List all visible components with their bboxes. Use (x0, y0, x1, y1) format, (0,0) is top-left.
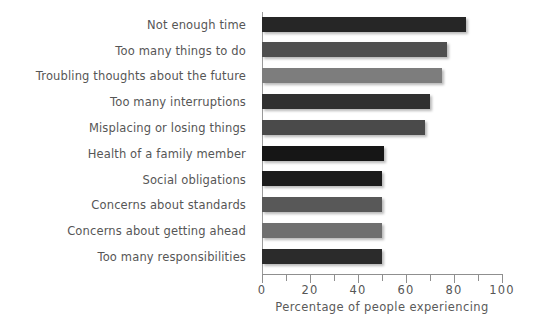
bar-track (262, 167, 539, 193)
bar-row: Troubling thoughts about the future (0, 64, 539, 90)
bar-row: Too many interruptions (0, 89, 539, 115)
bar-social-obligations (262, 171, 382, 186)
x-tick (454, 274, 455, 283)
category-label: Not enough time (0, 12, 254, 38)
bar-track (262, 38, 539, 64)
bar-track (262, 141, 539, 167)
category-label: Misplacing or losing things (0, 115, 254, 141)
category-label-text: Too many responsibilities (97, 250, 246, 264)
x-tick (310, 274, 311, 283)
category-label-text: Health of a family member (88, 147, 246, 161)
x-tick-label: 80 (445, 283, 462, 297)
category-label-text: Too many things to do (115, 44, 246, 58)
category-label-text: Too many interruptions (110, 95, 246, 109)
x-tick-label: 0 (258, 283, 267, 297)
bar-track (262, 193, 539, 219)
bar-row: Social obligations (0, 167, 539, 193)
bar-row: Concerns about standards (0, 193, 539, 219)
category-label: Too many interruptions (0, 89, 254, 115)
bar-not-enough-time (262, 17, 466, 32)
bar-health-of-a-family-member (262, 146, 384, 161)
bar-too-many-interruptions (262, 94, 430, 109)
x-tick (286, 274, 287, 281)
category-label-text: Not enough time (147, 18, 246, 32)
bar-track (262, 115, 539, 141)
bar-concerns-about-standards (262, 197, 382, 212)
category-label: Too many things to do (0, 38, 254, 64)
category-label: Social obligations (0, 167, 254, 193)
x-tick (502, 274, 503, 283)
category-label: Too many responsibilities (0, 244, 254, 270)
bar-rows: Not enough time Too many things to do Tr… (0, 12, 539, 270)
bar-row: Too many things to do (0, 38, 539, 64)
category-label: Concerns about getting ahead (0, 218, 254, 244)
bar-row: Not enough time (0, 12, 539, 38)
bar-too-many-responsibilities (262, 249, 382, 264)
bar-track (262, 244, 539, 270)
x-tick-label: 20 (301, 283, 318, 297)
category-label-text: Concerns about getting ahead (67, 224, 246, 238)
bar-row: Too many responsibilities (0, 244, 539, 270)
x-tick (382, 274, 383, 281)
x-tick-label: 60 (397, 283, 414, 297)
category-label-text: Troubling thoughts about the future (36, 69, 246, 83)
bar-row: Misplacing or losing things (0, 115, 539, 141)
bar-concerns-about-getting-ahead (262, 223, 382, 238)
category-label: Concerns about standards (0, 193, 254, 219)
x-tick (478, 274, 479, 281)
bar-chart: Not enough time Too many things to do Tr… (0, 0, 539, 323)
x-tick (334, 274, 335, 281)
bar-track (262, 64, 539, 90)
x-tick (406, 274, 407, 283)
bar-track (262, 218, 539, 244)
bar-row: Concerns about getting ahead (0, 218, 539, 244)
bar-track (262, 89, 539, 115)
bar-too-many-things-to-do (262, 42, 447, 57)
category-label-text: Concerns about standards (91, 198, 246, 212)
category-label: Health of a family member (0, 141, 254, 167)
category-label-text: Social obligations (142, 173, 246, 187)
x-tick-label: 40 (349, 283, 366, 297)
category-label-text: Misplacing or losing things (89, 121, 246, 135)
x-tick-label: 100 (489, 283, 515, 297)
bar-troubling-thoughts-about-the-future (262, 68, 442, 83)
bar-track (262, 12, 539, 38)
x-axis-label: Percentage of people experiencing (262, 300, 502, 314)
bar-row: Health of a family member (0, 141, 539, 167)
category-label: Troubling thoughts about the future (0, 64, 254, 90)
x-tick (430, 274, 431, 281)
bar-misplacing-or-losing-things (262, 120, 425, 135)
x-tick (358, 274, 359, 283)
x-tick (262, 274, 263, 283)
